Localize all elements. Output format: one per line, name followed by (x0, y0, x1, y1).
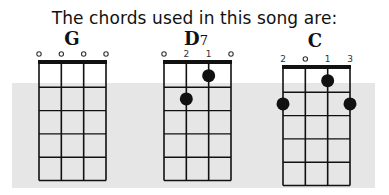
open-string-icon (104, 52, 108, 56)
finger-dot (277, 97, 290, 110)
open-string-icon (37, 52, 41, 56)
chord-diagram-c: 213 (282, 53, 351, 186)
finger-number: 1 (206, 49, 212, 59)
nut (163, 60, 232, 64)
open-string-icon (162, 52, 166, 56)
page-title: The chords used in this song are: (0, 8, 389, 28)
chord-name-c: C (295, 30, 335, 51)
finger-dot (321, 74, 334, 87)
chord-suffix: 7 (200, 33, 208, 48)
finger-number: 2 (183, 49, 189, 59)
finger-dot (180, 92, 193, 105)
chord-name-d7: D7 (176, 28, 216, 49)
open-string-icon (59, 52, 63, 56)
open-string-icon (303, 57, 307, 61)
chord-name-g: G (52, 28, 92, 49)
chord-diagram-g (38, 48, 107, 181)
finger-number: 2 (280, 54, 286, 64)
finger-number: 1 (325, 54, 331, 64)
chord-label: G (64, 28, 79, 49)
nut (38, 60, 107, 64)
open-string-icon (229, 52, 233, 56)
finger-dot (344, 97, 357, 110)
chord-label: D (184, 28, 200, 49)
finger-dot (202, 69, 215, 82)
finger-number: 3 (347, 54, 353, 64)
chord-diagram-d7: 21 (163, 48, 232, 181)
open-string-icon (81, 52, 85, 56)
chord-label: C (308, 30, 322, 51)
nut (282, 65, 351, 69)
